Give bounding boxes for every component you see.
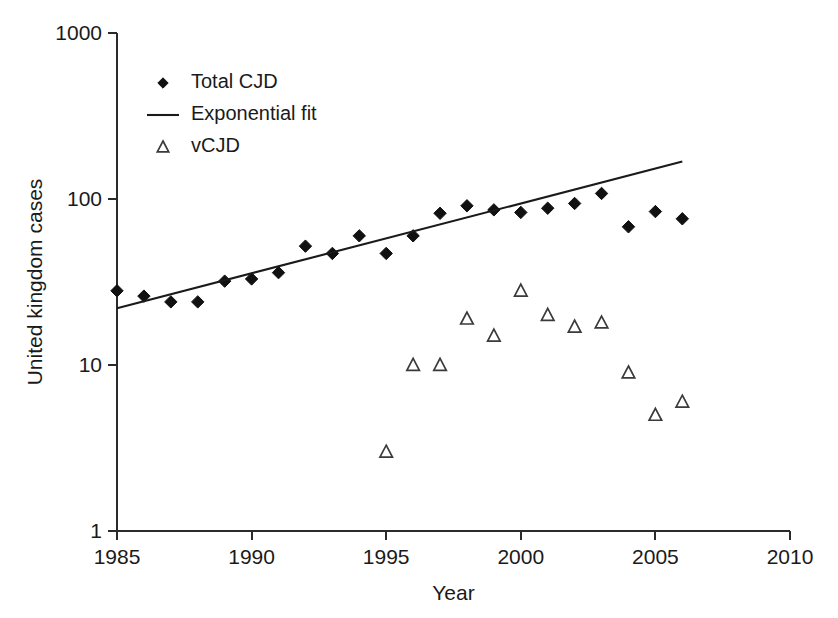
data-point-total-cjd	[299, 240, 311, 252]
data-point-vcjd	[541, 308, 554, 320]
data-point-total-cjd	[542, 202, 554, 214]
data-point-total-cjd	[649, 205, 661, 217]
x-tick-label-2005: 2005	[632, 545, 679, 568]
data-point-total-cjd	[595, 187, 607, 199]
data-point-vcjd	[434, 358, 447, 370]
data-point-vcjd	[676, 395, 689, 407]
y-tick-label-1000: 1000	[55, 21, 102, 44]
x-tick-label-1985: 1985	[94, 545, 141, 568]
data-point-total-cjd	[380, 247, 392, 259]
legend-label-diamond: Total CJD	[191, 70, 278, 92]
exponential-fit-line	[117, 162, 682, 309]
data-point-vcjd	[568, 320, 581, 332]
data-point-vcjd	[380, 445, 393, 457]
data-point-total-cjd	[165, 296, 177, 308]
data-point-total-cjd	[676, 213, 688, 225]
data-point-vcjd	[595, 316, 608, 328]
chart-canvas: 1101001000198519901995200020052010YearUn…	[0, 0, 838, 618]
legend-label-triangle: vCJD	[191, 134, 240, 156]
legend-label-line: Exponential fit	[191, 102, 317, 124]
x-axis-title: Year	[432, 581, 474, 604]
data-point-total-cjd	[111, 285, 123, 297]
y-tick-label-10: 10	[79, 353, 102, 376]
data-point-total-cjd	[568, 197, 580, 209]
data-point-total-cjd	[434, 207, 446, 219]
data-point-vcjd	[407, 358, 420, 370]
y-tick-label-1: 1	[90, 519, 102, 542]
data-point-total-cjd	[192, 296, 204, 308]
data-point-vcjd	[622, 366, 635, 378]
data-point-total-cjd	[622, 221, 634, 233]
data-point-total-cjd	[515, 206, 527, 218]
data-point-vcjd	[461, 312, 474, 324]
chart-figure: 1101001000198519901995200020052010YearUn…	[0, 0, 838, 618]
x-tick-label-1990: 1990	[228, 545, 275, 568]
data-point-vcjd	[515, 284, 528, 296]
x-tick-label-1995: 1995	[363, 545, 410, 568]
data-point-total-cjd	[461, 200, 473, 212]
data-point-vcjd	[649, 408, 662, 420]
data-point-total-cjd	[158, 78, 168, 88]
x-tick-label-2010: 2010	[767, 545, 814, 568]
y-tick-label-100: 100	[67, 187, 102, 210]
data-point-vcjd	[157, 141, 168, 152]
x-tick-label-2000: 2000	[497, 545, 544, 568]
y-axis-title: United kingdom cases	[23, 179, 46, 386]
data-point-total-cjd	[353, 230, 365, 242]
data-point-vcjd	[488, 329, 501, 341]
